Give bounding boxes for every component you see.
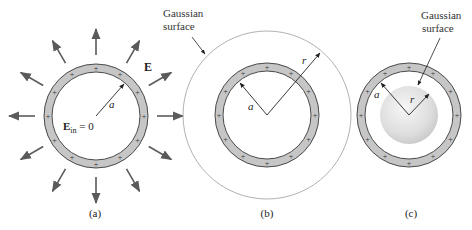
plus-charge: +: [94, 64, 99, 73]
gaussian-label-line2: surface: [422, 22, 454, 34]
plus-charge: +: [142, 112, 147, 121]
field-arrow-icon: [21, 73, 44, 86]
plus-charge: +: [217, 111, 222, 120]
panel-label-b: (b): [261, 207, 274, 220]
plus-charge: +: [306, 135, 311, 144]
plus-charge: +: [431, 152, 436, 161]
plus-charge: +: [265, 159, 270, 168]
panel-b: ++++++++++++ a r Gaussian surface (b): [163, 7, 351, 220]
plus-charge: +: [241, 69, 246, 78]
plus-charge: +: [407, 63, 412, 72]
field-label-e: E: [144, 60, 152, 74]
panel-c: ++++++++++++ a r Gaussian surface (c): [357, 9, 462, 220]
plus-charge: +: [365, 135, 370, 144]
field-arrow-icon: [149, 147, 172, 160]
plus-charge: +: [46, 112, 51, 121]
radius-label-a: a: [374, 88, 380, 100]
radius-label-a: a: [248, 100, 254, 112]
gaussian-label-line1: Gaussian: [421, 9, 462, 21]
field-arrow-icon: [53, 169, 66, 192]
field-arrow-icon: [127, 41, 140, 64]
plus-charge: +: [289, 152, 294, 161]
plus-charge: +: [52, 136, 57, 145]
inside-field-label: Ein = 0: [63, 120, 94, 135]
plus-charge: +: [94, 160, 99, 169]
plus-charge: +: [455, 111, 460, 120]
plus-charge: +: [118, 70, 123, 79]
plus-charge: +: [359, 111, 364, 120]
plus-charge: +: [448, 135, 453, 144]
radius-label-a: a: [109, 98, 115, 110]
radius-label-r: r: [410, 93, 415, 105]
field-arrow-icon: [149, 73, 172, 86]
panel-label-a: (a): [89, 207, 102, 220]
plus-charge: +: [70, 153, 75, 162]
radius-label-r: r: [302, 54, 307, 66]
field-arrow-icon: [127, 169, 140, 192]
plus-charge: +: [431, 69, 436, 78]
plus-charge: +: [135, 136, 140, 145]
inside-field-main: E: [63, 120, 70, 132]
plus-charge: +: [265, 63, 270, 72]
gaussian-label-line2: surface: [163, 20, 195, 32]
plus-charge: +: [223, 135, 228, 144]
inside-field-rest: = 0: [77, 120, 95, 132]
panel-a: ++++++++++++ a E Ein = 0 (a): [9, 29, 183, 220]
plus-charge: +: [241, 152, 246, 161]
panel-label-c: (c): [405, 207, 418, 220]
plus-charge: +: [407, 159, 412, 168]
gaussian-pointer-arrow: [192, 37, 205, 54]
plus-charge: +: [223, 87, 228, 96]
plus-charge: +: [289, 69, 294, 78]
plus-charge: +: [365, 87, 370, 96]
plus-charge: +: [135, 88, 140, 97]
plus-charge: +: [383, 152, 388, 161]
gauss-law-shell-figure: ++++++++++++ a E Ein = 0 (a) +++++++++++…: [0, 0, 472, 230]
plus-charge: +: [448, 87, 453, 96]
gaussian-label-line1: Gaussian: [163, 7, 204, 19]
field-arrow-icon: [53, 41, 66, 64]
plus-charge: +: [306, 87, 311, 96]
plus-charge: +: [118, 153, 123, 162]
plus-charge: +: [383, 69, 388, 78]
radius-arrow-a: [240, 83, 267, 115]
field-arrow-icon: [21, 147, 44, 160]
plus-charge: +: [313, 111, 318, 120]
plus-charge: +: [70, 70, 75, 79]
plus-charge: +: [52, 88, 57, 97]
